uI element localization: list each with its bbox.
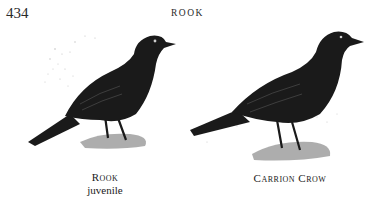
bird-icon bbox=[10, 24, 180, 156]
carrion-crow-illustration bbox=[182, 22, 367, 164]
caption-species: Rook bbox=[55, 171, 155, 184]
caption-species: Carrion Crow bbox=[230, 172, 350, 185]
caption-age: juvenile bbox=[55, 184, 155, 197]
caption-rook-juvenile: Rook juvenile bbox=[55, 171, 155, 197]
rook-juvenile-illustration bbox=[10, 24, 180, 156]
caption-carrion-crow: Carrion Crow bbox=[230, 172, 350, 185]
running-head: ROOK bbox=[0, 8, 375, 18]
bird-icon bbox=[182, 22, 367, 164]
